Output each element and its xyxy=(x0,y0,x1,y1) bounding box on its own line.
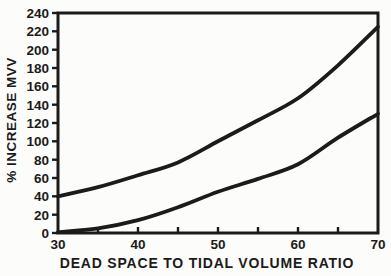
y-tick-label: 40 xyxy=(34,189,49,204)
chart-canvas: 0204060801001201401601802002202403040506… xyxy=(0,0,391,276)
x-tick-label: 40 xyxy=(130,237,145,252)
chart: 0204060801001201401601802002202403040506… xyxy=(0,0,391,276)
y-tick-label: 200 xyxy=(26,43,49,58)
y-tick-label: 60 xyxy=(34,171,49,186)
x-tick-label: 50 xyxy=(210,237,225,252)
y-tick-label: 180 xyxy=(26,61,49,76)
y-tick-label: 100 xyxy=(26,134,49,149)
x-tick-label: 30 xyxy=(50,237,65,252)
lower-curve-line xyxy=(58,114,378,232)
y-axis-title: % INCREASE MVV xyxy=(4,57,19,183)
plot-border xyxy=(58,13,378,233)
y-tick-label: 120 xyxy=(26,116,49,131)
upper-curve-line xyxy=(58,27,378,197)
y-tick-label: 220 xyxy=(26,24,49,39)
x-axis-title: DEAD SPACE TO TIDAL VOLUME RATIO xyxy=(60,255,354,271)
y-tick-label: 140 xyxy=(26,98,49,113)
plot-area: 0204060801001201401601802002202403040506… xyxy=(26,6,385,252)
y-tick-label: 0 xyxy=(41,226,49,241)
y-tick-label: 20 xyxy=(34,208,49,223)
x-tick-label: 60 xyxy=(290,237,305,252)
x-tick-label: 70 xyxy=(370,237,385,252)
y-tick-label: 80 xyxy=(34,153,49,168)
y-tick-label: 160 xyxy=(26,79,49,94)
y-tick-label: 240 xyxy=(26,6,49,21)
